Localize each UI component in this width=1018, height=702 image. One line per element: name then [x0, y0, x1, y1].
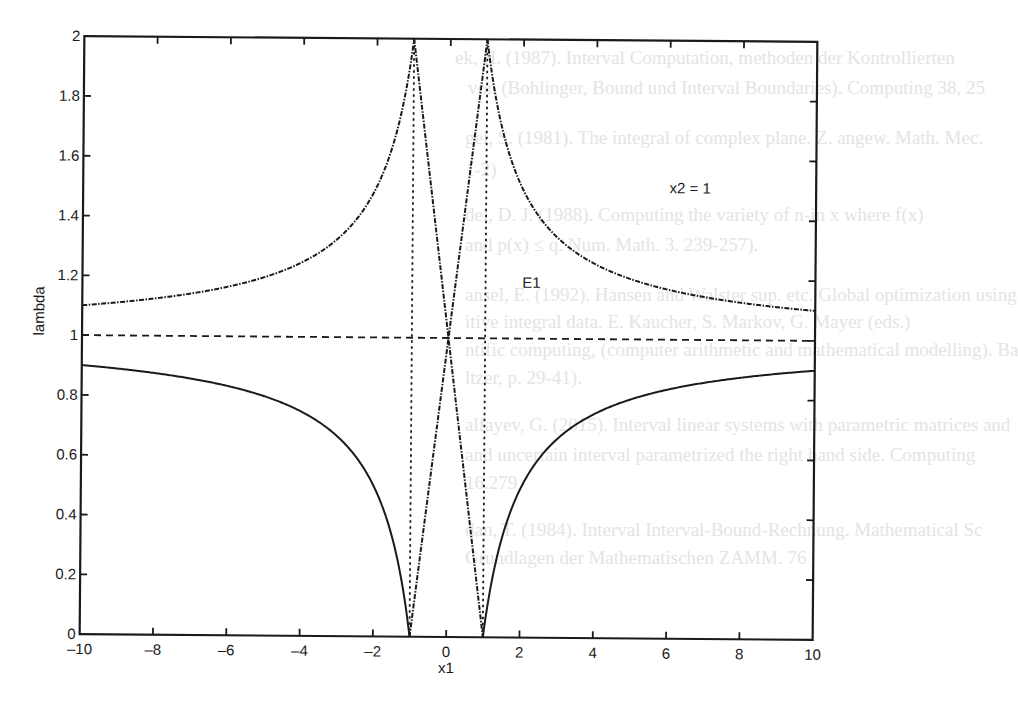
- y-tick-label: 0: [67, 625, 75, 642]
- x-tick-label: –2: [364, 642, 381, 659]
- y-tick-label: 0.2: [55, 565, 76, 582]
- x-tick-label: 6: [662, 645, 670, 662]
- y-tick-label: 0.4: [56, 505, 77, 522]
- y-tick-label: 1.2: [58, 266, 79, 283]
- y-tick-label: 0.8: [57, 386, 78, 403]
- series-line-2: [80, 365, 412, 637]
- x-tick-label: –8: [144, 641, 161, 658]
- plot-curves: [80, 36, 818, 640]
- y-tick-label: 1.8: [59, 87, 80, 104]
- x-tick-label: –10: [67, 640, 92, 657]
- x-tick-label: 0: [442, 643, 450, 660]
- x-tick-label: 2: [515, 644, 523, 661]
- y-tick-label: 1.6: [58, 147, 79, 164]
- y-axis-label: lambda: [30, 286, 47, 336]
- annotation-e1: E1: [522, 274, 540, 291]
- series-line-1: [485, 39, 817, 311]
- y-tick-label: 1: [70, 326, 78, 343]
- series-line-0: [82, 36, 414, 308]
- y-tick-label: 1.4: [58, 206, 79, 223]
- x-tick-label: –4: [291, 642, 308, 659]
- x-axis-label: x1: [438, 659, 454, 676]
- y-tick-labels: 00.20.40.60.811.21.41.61.82: [55, 27, 81, 642]
- x-tick-label: 10: [804, 646, 821, 663]
- annotation-x2-equals-1: x2 = 1: [670, 179, 711, 196]
- x-tick-label: 8: [735, 645, 743, 662]
- y-tick-label: 2: [72, 27, 80, 44]
- series-line-3: [483, 368, 815, 640]
- y-tick-label: 0.6: [56, 446, 77, 463]
- x-tick-label: –6: [218, 641, 235, 658]
- x-tick-label: 4: [588, 644, 596, 661]
